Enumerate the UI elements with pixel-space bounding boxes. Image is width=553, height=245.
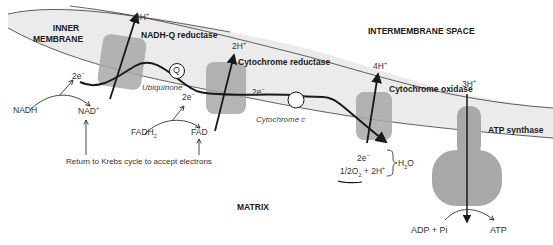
proton-label-complex4: 4H+ bbox=[373, 61, 387, 70]
proton-text: + 2H bbox=[362, 166, 383, 176]
nadh-label: NADH bbox=[13, 106, 37, 115]
atp-synthase-label: ATP synthase bbox=[488, 126, 543, 135]
electron-label-oxidase: 2e− bbox=[357, 153, 370, 162]
intermembrane-space-label: INTERMEMBRANE SPACE bbox=[368, 27, 475, 36]
fadh-text: FADH bbox=[131, 127, 154, 137]
cytochrome-reductase-label: Cytochrome reductase bbox=[238, 58, 330, 67]
nad-text: NAD bbox=[78, 106, 96, 116]
proton-charge: + bbox=[382, 165, 385, 171]
proton-charge: + bbox=[473, 78, 476, 84]
cytochrome-c-label: Cytochrome c bbox=[256, 116, 305, 124]
electron-label-fadh2: 2e− bbox=[182, 92, 195, 101]
proton-label-complex3: 2H+ bbox=[232, 41, 246, 50]
proton-count: 3H bbox=[462, 79, 473, 89]
cytochrome-c-carrier bbox=[288, 92, 304, 108]
proton-charge: + bbox=[243, 40, 246, 46]
electron-charge: − bbox=[191, 91, 194, 97]
inner-membrane-line2: MEMBRANE bbox=[33, 35, 83, 44]
water-o: O bbox=[407, 158, 414, 168]
fadh-subscript: 2 bbox=[154, 133, 157, 139]
q-label: Q bbox=[173, 66, 180, 75]
fadh2-label: FADH2 bbox=[131, 128, 157, 139]
proton-label-atp-synthase: 3H+ bbox=[462, 79, 476, 88]
proton-label-complex1: 4H+ bbox=[135, 12, 149, 21]
proton-count: 4H bbox=[135, 12, 146, 22]
oxygen-text: 1/2O bbox=[340, 166, 358, 176]
krebs-note: Return to Krebs cycle to accept electron… bbox=[66, 158, 212, 166]
electron-label-nadh: 2e− bbox=[72, 71, 85, 80]
electron-charge: − bbox=[366, 152, 369, 158]
proton-charge: + bbox=[384, 60, 387, 66]
water-label: H2O bbox=[398, 159, 414, 170]
cytochrome-oxidase-label: Cytochrome oxidase bbox=[389, 85, 473, 94]
inner-membrane-label: INNER MEMBRANE bbox=[49, 24, 83, 43]
oxygen-equation: 1/2O2 + 2H+ bbox=[340, 166, 385, 178]
proton-count: 4H bbox=[373, 61, 384, 71]
electron-charge: − bbox=[81, 70, 84, 76]
electron-charge: − bbox=[261, 86, 264, 92]
electron-label-cyt-c: 2e− bbox=[252, 87, 265, 96]
inner-membrane-line1: INNER bbox=[49, 24, 83, 33]
ubiquinone-label: Ubiquinone bbox=[142, 84, 182, 92]
nad-charge: + bbox=[96, 105, 99, 111]
proton-count: 2H bbox=[232, 41, 243, 51]
etc-diagram: INNER MEMBRANE INTERMEMBRANE SPACE MATRI… bbox=[0, 0, 553, 245]
fad-label: FAD bbox=[191, 128, 208, 137]
nadh-q-reductase-label: NADH-Q reductase bbox=[141, 31, 218, 40]
atp-label: ATP bbox=[490, 226, 507, 235]
nad-plus-label: NAD+ bbox=[78, 106, 99, 115]
adp-pi-label: ADP + Pi bbox=[411, 226, 448, 235]
proton-charge: + bbox=[146, 11, 149, 17]
matrix-label: MATRIX bbox=[237, 203, 269, 212]
